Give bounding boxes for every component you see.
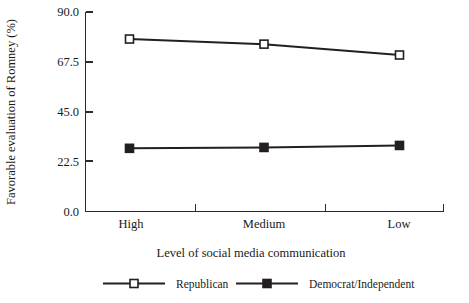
x-tick-label-low: Low <box>388 217 411 231</box>
y-axis-title: Favorable evaluation of Romney (%) <box>4 19 18 205</box>
legend-label-republican: Republican <box>176 278 229 291</box>
line-chart-canvas: Favorable evaluation of Romney (%) 90.0 … <box>0 0 469 303</box>
legend-marker-filled-square-icon <box>263 280 271 288</box>
x-tick-label-medium: Medium <box>243 217 286 231</box>
legend-entry-democrat-independent: Democrat/Independent <box>236 278 415 291</box>
legend-marker-open-square-icon <box>130 280 138 288</box>
data-point-republican-low <box>396 51 404 59</box>
legend-label-democrat-independent: Democrat/Independent <box>309 278 415 291</box>
chart-legend: Republican Democrat/Independent <box>103 278 415 291</box>
series-democrat-independent <box>126 141 404 152</box>
y-tick-label-22-5: 22.5 <box>57 155 79 169</box>
y-tick-label-0: 0.0 <box>63 205 79 219</box>
data-point-democrat-low <box>396 141 404 149</box>
y-tick-label-67-5: 67.5 <box>57 55 79 69</box>
data-point-democrat-high <box>126 144 134 152</box>
x-tick-label-high: High <box>119 217 145 231</box>
data-point-republican-medium <box>260 40 268 48</box>
y-tick-label-45: 45.0 <box>57 105 79 119</box>
data-point-democrat-medium <box>260 143 268 151</box>
chart-figure: Favorable evaluation of Romney (%) 90.0 … <box>0 0 469 303</box>
data-point-republican-high <box>126 35 134 43</box>
y-tick-label-90: 90.0 <box>57 5 79 19</box>
series-republican <box>126 35 404 59</box>
legend-entry-republican: Republican <box>103 278 229 291</box>
x-axis-title: Level of social media communication <box>157 246 347 260</box>
